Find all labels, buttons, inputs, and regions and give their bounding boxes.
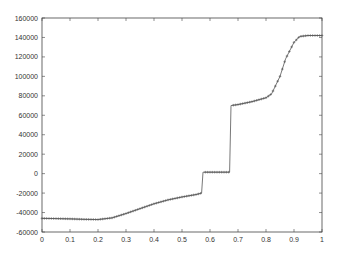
y-tick-label: -60000 <box>16 229 38 236</box>
x-tick-label: 0.6 <box>205 236 215 243</box>
y-tick-label: -20000 <box>16 190 38 197</box>
x-tick-label: 0.3 <box>121 236 131 243</box>
x-tick-label: 0.5 <box>177 236 187 243</box>
y-tick-label: 40000 <box>19 131 39 138</box>
y-tick-label: 100000 <box>15 73 38 80</box>
y-tick-label: 140000 <box>15 34 38 41</box>
x-tick-label: 0 <box>40 236 44 243</box>
y-tick-label: 20000 <box>19 151 39 158</box>
x-tick-label: 0.7 <box>233 236 243 243</box>
x-tick-label: 0.4 <box>149 236 159 243</box>
line-chart: -60000-40000-200000200004000060000800001… <box>0 0 341 255</box>
y-tick-label: 120000 <box>15 53 38 60</box>
x-tick-label: 0.2 <box>93 236 103 243</box>
y-tick-label: 160000 <box>15 15 38 22</box>
x-tick-label: 0.8 <box>261 236 271 243</box>
x-tick-label: 0.1 <box>65 236 75 243</box>
y-tick-label: 0 <box>34 170 38 177</box>
plot-area <box>42 18 322 232</box>
y-tick-label: 80000 <box>19 92 39 99</box>
x-tick-label: 0.9 <box>289 236 299 243</box>
y-tick-label: -40000 <box>16 209 38 216</box>
y-tick-label: 60000 <box>19 112 39 119</box>
x-tick-label: 1 <box>320 236 324 243</box>
